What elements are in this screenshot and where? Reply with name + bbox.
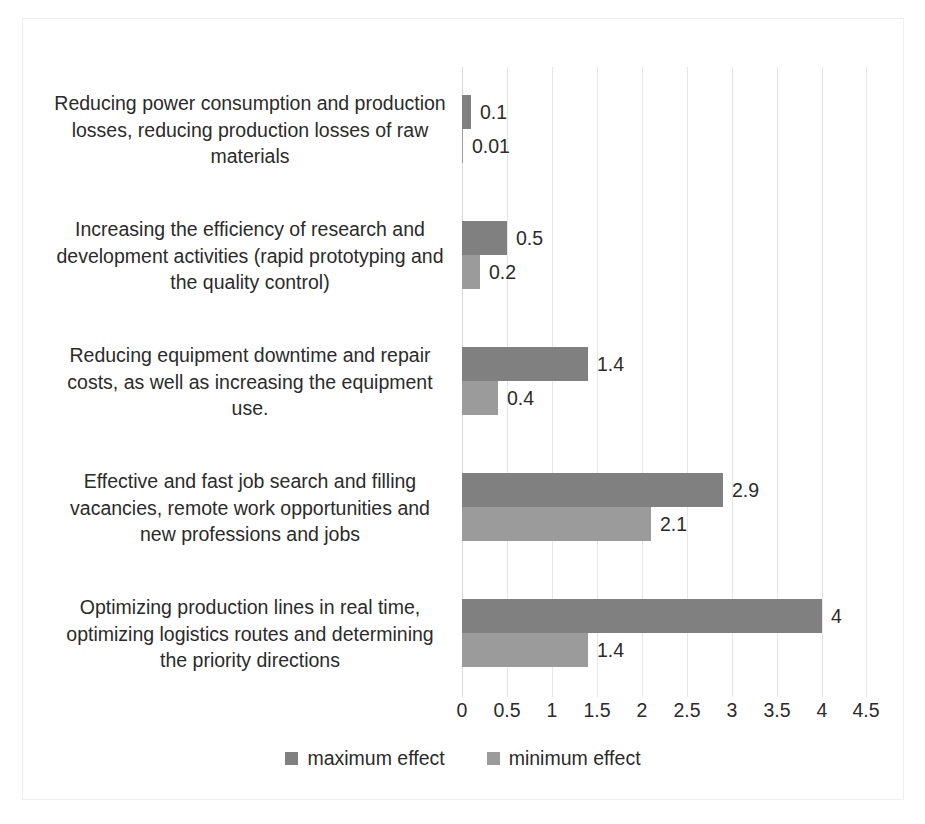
bar-group: 0.5 0.2 — [462, 193, 867, 319]
bar-value-label: 0.1 — [471, 101, 507, 124]
x-tick-label: 0 — [457, 699, 468, 722]
bar-value-label: 0.2 — [480, 261, 516, 284]
bar-value-label: 0.01 — [463, 135, 510, 158]
bar-fill — [462, 633, 588, 667]
x-tick-label: 1 — [547, 699, 558, 722]
bar-fill — [462, 599, 822, 633]
bar-group: 1.4 0.4 — [462, 319, 867, 445]
category-axis: Reducing power consumption and productio… — [53, 67, 453, 697]
legend-label: maximum effect — [307, 747, 444, 770]
x-axis: 0 0.5 1 1.5 2 2.5 3 3.5 4 4.5 — [462, 699, 867, 733]
x-tick-label: 4.5 — [852, 699, 879, 722]
category-label: Optimizing production lines in real time… — [53, 571, 453, 697]
category-label: Reducing power consumption and productio… — [53, 67, 453, 193]
legend-label: minimum effect — [509, 747, 641, 770]
x-tick-label: 0.5 — [493, 699, 520, 722]
bar-value-label: 0.4 — [498, 387, 534, 410]
bar-fill — [462, 347, 588, 381]
legend-item-maximum-effect[interactable]: maximum effect — [285, 747, 444, 770]
bar-value-label: 2.1 — [651, 513, 687, 536]
x-tick-label: 4 — [817, 699, 828, 722]
chart-legend: maximum effect minimum effect — [23, 747, 903, 770]
x-tick-label: 2.5 — [673, 699, 700, 722]
bar-value-label: 4 — [822, 605, 842, 628]
category-label: Increasing the efficiency of research an… — [53, 193, 453, 319]
chart-frame: Reducing power consumption and productio… — [22, 18, 904, 800]
bar-fill — [462, 255, 480, 289]
legend-swatch-icon — [487, 752, 500, 765]
category-label: Reducing equipment downtime and repair c… — [53, 319, 453, 445]
bar-group: 0.1 0.01 — [462, 67, 867, 193]
bar-fill — [462, 95, 471, 129]
bar-fill — [462, 381, 498, 415]
x-tick-label: 1.5 — [583, 699, 610, 722]
bar-group: 2.9 2.1 — [462, 445, 867, 571]
bar-group: 4 1.4 — [462, 571, 867, 697]
legend-swatch-icon — [285, 752, 298, 765]
legend-item-minimum-effect[interactable]: minimum effect — [487, 747, 641, 770]
bar-fill — [462, 507, 651, 541]
bar-fill — [462, 221, 507, 255]
bar-value-label: 0.5 — [507, 227, 543, 250]
bar-value-label: 1.4 — [588, 353, 624, 376]
bar-fill — [462, 473, 723, 507]
category-label: Effective and fast job search and fillin… — [53, 445, 453, 571]
x-tick-label: 3 — [727, 699, 738, 722]
x-tick-label: 2 — [637, 699, 648, 722]
x-tick-label: 3.5 — [763, 699, 790, 722]
plot-area: 0.1 0.01 0.5 0.2 1.4 0. — [462, 67, 867, 697]
bar-value-label: 1.4 — [588, 639, 624, 662]
bar-value-label: 2.9 — [723, 479, 759, 502]
